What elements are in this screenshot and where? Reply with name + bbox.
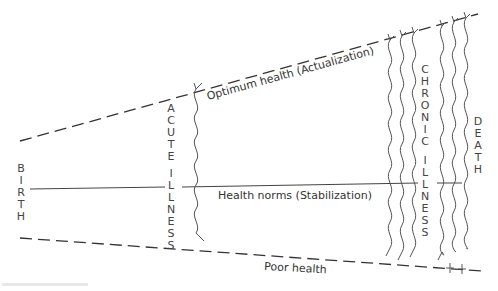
death-label: D E A T H — [473, 116, 483, 176]
acute-illness-wave — [194, 89, 204, 241]
acute-arrow-icon — [194, 83, 202, 89]
acute-label-word1: A C U T E — [166, 103, 176, 163]
chronic-label-word2: I L L N E S S — [420, 155, 430, 239]
birth-label: B I R T H — [16, 163, 26, 223]
health-norms-line-left — [30, 187, 165, 189]
poor-health-line — [20, 238, 482, 271]
acute-label-word2: I L L N E S S — [166, 168, 176, 252]
health-norms-label: Health norms (Stabilization) — [218, 189, 372, 202]
chronic-label-word1: C H R O N I C — [420, 64, 430, 148]
faint-caption — [2, 283, 88, 286]
poor-health-label: Poor health — [264, 260, 327, 276]
health-norms-line-right — [182, 183, 418, 187]
optimum-health-label: Optimum health (Actualization) — [205, 44, 375, 103]
